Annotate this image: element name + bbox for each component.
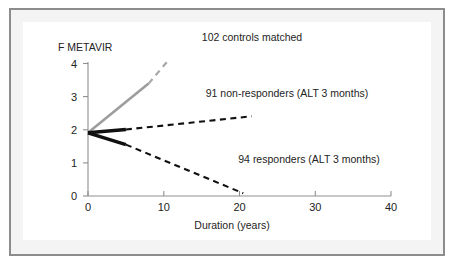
y-tick-label-1: 1 bbox=[71, 157, 77, 169]
x-tick-label-10: 10 bbox=[158, 201, 170, 213]
x-axis-ticks bbox=[88, 191, 391, 196]
y-tick-label-3: 3 bbox=[71, 91, 77, 103]
y-tick-label-0: 0 bbox=[71, 190, 77, 202]
series-line-controls-solid bbox=[88, 84, 149, 133]
y-tick-label-2: 2 bbox=[71, 124, 77, 136]
series-line-responders-solid bbox=[88, 133, 126, 145]
x-tick-label-40: 40 bbox=[385, 201, 397, 213]
series-line-responders-dashed bbox=[126, 145, 243, 194]
fibrosis-progression-chart: 4 3 2 1 0 0 10 20 30 40 F METAVIR Durati… bbox=[0, 0, 454, 264]
y-axis-ticks bbox=[83, 64, 88, 197]
annotation-nonresponders: 91 non-responders (ALT 3 months) bbox=[206, 87, 368, 99]
series-line-nonresponders-solid bbox=[88, 130, 126, 133]
annotation-controls: 102 controls matched bbox=[202, 31, 303, 43]
annotation-responders: 94 responders (ALT 3 months) bbox=[238, 153, 379, 165]
x-axis-title: Duration (years) bbox=[194, 219, 269, 231]
y-axis-title: F METAVIR bbox=[58, 41, 113, 53]
y-tick-label-4: 4 bbox=[71, 58, 77, 70]
series-line-nonresponders-dashed bbox=[126, 116, 252, 129]
series-line-controls-dashed bbox=[149, 60, 169, 83]
x-tick-label-0: 0 bbox=[85, 201, 91, 213]
x-tick-label-20: 20 bbox=[233, 201, 245, 213]
x-tick-label-30: 30 bbox=[309, 201, 321, 213]
